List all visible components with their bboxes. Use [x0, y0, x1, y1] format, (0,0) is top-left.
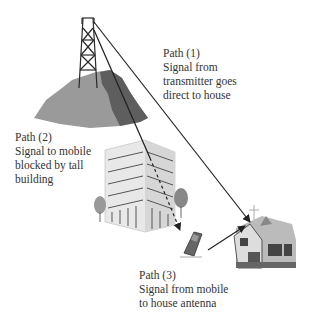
path3-line-1: Signal from mobile: [139, 282, 228, 296]
path3-line-2: to house antenna: [139, 296, 228, 310]
building-icon: [94, 140, 188, 232]
hill-icon: [34, 70, 148, 128]
path1-label: Path (1) Signal from transmitter goes di…: [163, 46, 237, 102]
house-icon: [234, 205, 296, 268]
mobile-phone-icon: [180, 232, 202, 257]
path1-title: Path (1): [163, 46, 237, 60]
path2-line-1: Signal to mobile: [15, 144, 91, 158]
path3-title: Path (3): [139, 268, 228, 282]
path3-label: Path (3) Signal from mobile to house ant…: [139, 268, 228, 310]
path2-label: Path (2) Signal to mobile blocked by tal…: [15, 130, 91, 186]
path1-line-3: direct to house: [163, 88, 237, 102]
path2-line-2: blocked by tall: [15, 158, 91, 172]
path1-line-1: Signal from: [163, 60, 237, 74]
signal-path-diagram: Path (1) Signal from transmitter goes di…: [0, 0, 315, 317]
path2-title: Path (2): [15, 130, 91, 144]
path2-line-3: building: [15, 172, 91, 186]
path1-line-2: transmitter goes: [163, 74, 237, 88]
